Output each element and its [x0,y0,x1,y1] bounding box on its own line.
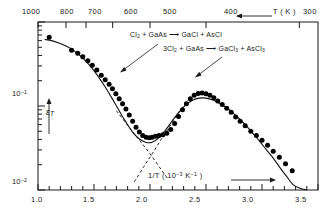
data-point [180,107,185,112]
data-point [224,106,229,111]
fitted-curve [45,39,307,190]
data-point [110,86,115,91]
data-point [176,114,181,119]
annotation-2-arrow-line [197,57,222,76]
data-point [260,138,265,143]
asymptote-curve [116,111,168,179]
top-axis-arrow-head [236,13,242,18]
annotation-1-arrow-line [122,44,158,71]
data-point [130,119,135,124]
data-point [233,114,238,119]
data-point [113,91,118,96]
data-point [290,168,295,173]
data-point [243,123,248,128]
data-point [164,131,169,136]
data-point [69,48,74,53]
data-point [277,155,282,160]
data-point [120,101,125,106]
data-point [271,149,276,154]
data-point [80,54,85,59]
data-point [215,98,220,103]
plot-frame [38,22,318,190]
annotation-1-arrow-head [120,67,127,73]
data-point [254,133,259,138]
data-point [85,58,90,63]
annotation-2-arrow-head [195,72,202,78]
x-axis-arrow-head [270,177,276,182]
data-point [117,96,122,101]
data-point [127,113,132,118]
data-point [265,143,270,148]
data-point [220,102,225,107]
data-point [99,73,104,78]
data-point [283,161,288,166]
data-point [94,68,99,73]
y-axis-arrow-head [47,98,52,104]
data-point [229,110,234,115]
data-point [107,82,112,87]
data-point [172,121,177,126]
plot-canvas [0,0,333,217]
data-point [103,77,108,82]
data-point [238,119,243,124]
data-point [211,95,216,100]
data-point [184,101,189,106]
figure-root: 1000 800 700 600 500 400 300 T ( K ) 10−… [0,0,333,217]
data-point [75,51,80,56]
data-point [168,127,173,132]
data-point [134,125,139,130]
data-point [90,63,95,68]
data-point [123,107,128,112]
data-point [47,35,52,40]
data-point [248,129,253,134]
data-point [188,96,193,101]
